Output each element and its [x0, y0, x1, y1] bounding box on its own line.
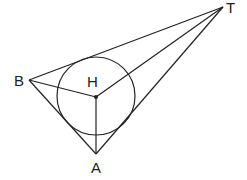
- segment-BA: [29, 80, 96, 154]
- label-T: T: [226, 0, 235, 16]
- label-A: A: [91, 159, 101, 176]
- segment-TA: [96, 7, 223, 154]
- segment-TB: [29, 7, 223, 80]
- geometry-diagram: T B H A: [0, 0, 247, 180]
- label-B: B: [14, 72, 24, 89]
- segment-BH: [29, 80, 96, 97]
- segment-TH: [96, 7, 223, 97]
- point-H-dot: [94, 95, 98, 99]
- label-H: H: [87, 73, 98, 90]
